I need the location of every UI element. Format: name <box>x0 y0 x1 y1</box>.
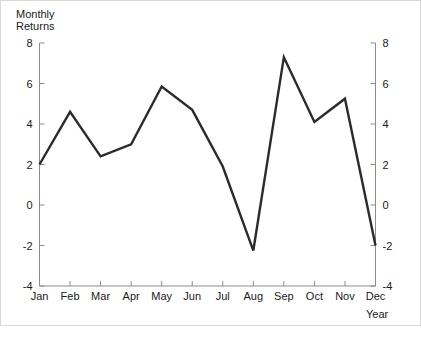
x-axis-tick-label: Feb <box>61 290 80 302</box>
y-axis-right-tick-label: 4 <box>383 118 389 130</box>
x-axis-tick-label: Sep <box>274 290 294 302</box>
y-axis-right-ticks <box>371 43 376 286</box>
x-axis-tick-label: Dec <box>366 290 386 302</box>
y-axis-right-tick-label: 2 <box>383 159 389 171</box>
x-axis-tick-label: Aug <box>244 290 264 302</box>
y-axis-left-tick-label: 8 <box>26 37 32 49</box>
x-axis-tick-label: Apr <box>123 290 140 302</box>
y-axis-left-tick-label: 4 <box>26 118 32 130</box>
y-axis-right-tick-label: 0 <box>383 199 389 211</box>
y-axis-left-tick-label: 0 <box>26 199 32 211</box>
x-axis-tick-labels: JanFebMarAprMayJunJulAugSepOctNovDec <box>31 290 386 302</box>
y-axis-left: -4-202468 <box>23 37 45 292</box>
chart-figure: Monthly Returns Year -4-202468 -4-202468… <box>0 0 421 342</box>
x-axis-tick-label: Jul <box>216 290 230 302</box>
y-axis-right-tick-label: 6 <box>383 78 389 90</box>
x-axis: JanFebMarAprMayJunJulAugSepOctNovDec <box>31 281 386 302</box>
y-axis-right-tick-labels: -4-202468 <box>383 37 393 292</box>
x-axis-ticks <box>40 281 376 286</box>
x-axis-tick-label: May <box>151 290 172 302</box>
y-axis-left-tick-label: 2 <box>26 159 32 171</box>
data-series-line <box>40 57 376 250</box>
y-axis-right: -4-202468 <box>371 37 393 292</box>
y-axis-right-tick-label: 8 <box>383 37 389 49</box>
y-axis-right-tick-label: -2 <box>383 240 393 252</box>
plot-area: -4-202468 -4-202468 JanFebMarAprMayJunJu… <box>0 0 421 342</box>
y-axis-left-tick-label: 6 <box>26 78 32 90</box>
y-axis-left-tick-label: -2 <box>23 240 33 252</box>
x-axis-tick-label: Nov <box>335 290 355 302</box>
x-axis-tick-label: Jan <box>31 290 49 302</box>
x-axis-tick-label: Jun <box>183 290 201 302</box>
y-axis-left-tick-labels: -4-202468 <box>23 37 33 292</box>
x-axis-tick-label: Mar <box>91 290 110 302</box>
x-axis-tick-label: Oct <box>306 290 323 302</box>
